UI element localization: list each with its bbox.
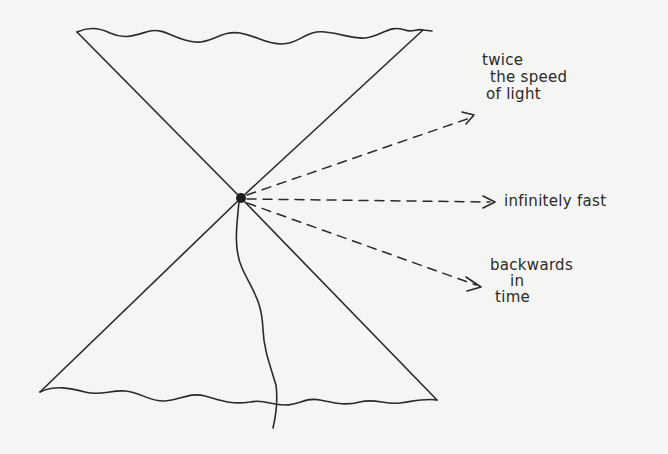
label-the-speed: the speed (490, 69, 567, 85)
label-in: in (510, 273, 524, 289)
arrow-infinitely-fast (247, 199, 490, 202)
light-cone-diagram: twice the speed of light infinitely fast… (0, 0, 668, 454)
label-backwards: backwards (490, 257, 573, 273)
label-time: time (495, 289, 530, 305)
arrowhead-icon (462, 112, 474, 124)
event-point (236, 193, 246, 203)
future-cone-edge (77, 28, 432, 44)
diagram-drawing (0, 0, 668, 454)
past-cone-edge (40, 388, 437, 405)
arrow-twice-speed (247, 118, 470, 195)
label-of-light: of light (486, 86, 541, 102)
past-left-edge (40, 198, 241, 392)
worldline (236, 202, 276, 428)
arrow-backwards-time (247, 203, 476, 285)
future-left-edge (77, 32, 241, 198)
future-right-edge (241, 30, 423, 198)
label-infinitely-fast: infinitely fast (504, 193, 606, 209)
label-twice: twice (482, 52, 523, 68)
past-right-edge (241, 198, 437, 400)
